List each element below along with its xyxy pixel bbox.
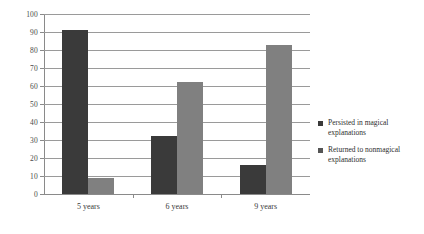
legend-swatch-icon-0 (318, 121, 323, 126)
y-axis-label-0: 0 (34, 190, 38, 199)
bar-9-years-series-1 (266, 45, 292, 194)
legend-entry-0: Persisted in magical explanations (318, 118, 422, 137)
y-tick-100 (40, 14, 44, 15)
y-tick-20 (40, 158, 44, 159)
gridline-y-100 (44, 14, 310, 15)
y-axis-label-80: 80 (30, 46, 38, 55)
y-tick-30 (40, 140, 44, 141)
y-axis-label-50: 50 (30, 100, 38, 109)
legend-label-1: Returned to nonmagical explanations (328, 145, 422, 164)
bar-5-years-series-0 (62, 30, 88, 194)
bar-9-years-series-0 (240, 165, 266, 194)
y-axis-label-70: 70 (30, 64, 38, 73)
legend-label-0: Persisted in magical explanations (328, 118, 422, 137)
x-axis-separator-1 (133, 194, 134, 198)
y-tick-90 (40, 32, 44, 33)
y-tick-10 (40, 176, 44, 177)
y-tick-80 (40, 50, 44, 51)
legend-entry-1: Returned to nonmagical explanations (318, 145, 422, 164)
gridline-y-0 (44, 194, 310, 195)
legend-swatch-icon-1 (318, 148, 323, 153)
y-axis-label-90: 90 (30, 28, 38, 37)
x-axis-label-1: 6 years (166, 202, 189, 211)
y-axis-label-100: 100 (26, 10, 38, 19)
y-tick-70 (40, 68, 44, 69)
y-tick-0 (40, 194, 44, 195)
bar-6-years-series-1 (177, 82, 203, 194)
chart-legend: Persisted in magical explanationsReturne… (318, 118, 422, 172)
bar-5-years-series-1 (88, 178, 114, 194)
y-axis-label-20: 20 (30, 154, 38, 163)
bar-6-years-series-0 (151, 136, 177, 194)
y-tick-50 (40, 104, 44, 105)
x-axis-label-0: 5 years (77, 202, 100, 211)
plot-area: 01020304050607080901005 years6 years9 ye… (44, 14, 310, 194)
x-axis-label-2: 9 years (254, 202, 277, 211)
y-axis-label-60: 60 (30, 82, 38, 91)
y-axis-label-30: 30 (30, 136, 38, 145)
bar-chart-figure: 01020304050607080901005 years6 years9 ye… (0, 0, 424, 234)
y-axis-label-40: 40 (30, 118, 38, 127)
y-tick-40 (40, 122, 44, 123)
y-tick-60 (40, 86, 44, 87)
x-axis-separator-2 (221, 194, 222, 198)
y-axis-label-10: 10 (30, 172, 38, 181)
